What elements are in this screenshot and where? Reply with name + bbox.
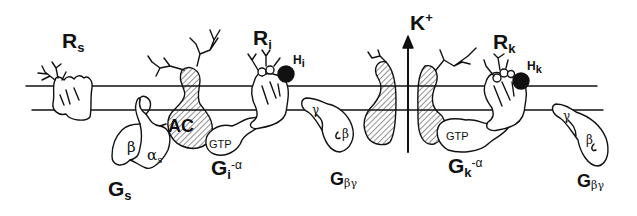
gbg-right-sub: βγ [591, 179, 604, 192]
hi-label-sub: i [302, 57, 305, 69]
rs-label-sub: s [77, 40, 84, 55]
rk-receptor-shape [484, 54, 529, 131]
gbg-right-main: G [577, 171, 591, 191]
kplus-label: K+ [410, 11, 433, 33]
hk-label-sub: k [536, 63, 542, 75]
gamma-right-label: γ [563, 110, 570, 122]
gs-label: Gs [108, 178, 132, 202]
rk-label: Rk [493, 31, 515, 55]
kplus-sup: + [425, 10, 433, 25]
hk-hormone-ball [513, 73, 529, 89]
gtp-i-label: GTP [209, 139, 232, 150]
alpha-s-sub: s [157, 154, 162, 165]
hk-label-main: H [527, 59, 536, 73]
gbg-left-sub: βγ [344, 177, 357, 190]
hi-label: Hi [293, 54, 305, 69]
kplus-main: K [410, 11, 425, 34]
gamma-left-label: γ [312, 104, 319, 116]
ri-label: Ri [253, 27, 272, 51]
gi-alpha-sup: -α [231, 158, 242, 172]
beta-s-label: β [127, 140, 136, 155]
beta-right-label: β [586, 134, 593, 146]
gbg-right-shape [553, 104, 608, 166]
gk-alpha-main: G [448, 154, 464, 177]
gs-label-sub: s [124, 188, 131, 203]
gs-label-main: G [108, 177, 124, 200]
gi-alpha-main: G [211, 156, 227, 179]
gtp-k-label: GTP [446, 131, 469, 142]
gk-alpha-sub: k [464, 165, 471, 180]
rk-label-sub: k [508, 41, 515, 56]
hk-label: Hk [527, 60, 542, 75]
gbg-left-label: Gβγ [330, 170, 357, 189]
gbg-left-shape [302, 98, 354, 152]
rs-receptor-shape [38, 62, 92, 120]
ac-label: AC [168, 117, 194, 135]
hi-hormone-ball [278, 66, 294, 82]
gbg-left-main: G [330, 169, 344, 189]
alpha-s-main: α [147, 146, 157, 164]
gi-alpha-label: Gi-α [211, 157, 242, 181]
gk-alpha-label: Gk-α [448, 155, 483, 179]
ri-label-sub: i [268, 37, 272, 52]
rk-label-main: R [493, 30, 508, 53]
rs-label-main: R [62, 29, 77, 52]
ri-receptor-shape [248, 50, 294, 129]
rs-label: Rs [62, 30, 84, 54]
beta-left-label: β [342, 128, 349, 140]
ri-label-main: R [253, 26, 268, 49]
alpha-s-label: αs [147, 148, 162, 165]
gbg-right-label: Gβγ [577, 172, 604, 191]
hi-label-main: H [293, 53, 302, 67]
gk-alpha-sup: -α [472, 156, 483, 170]
